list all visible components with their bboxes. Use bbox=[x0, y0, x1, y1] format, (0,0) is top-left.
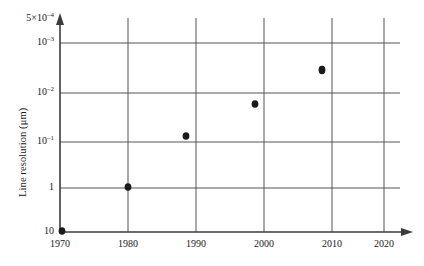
x-axis bbox=[60, 228, 413, 236]
x-tick-label-2020: 2020 bbox=[362, 238, 406, 249]
y-tick-base-1e-2: 10 bbox=[37, 86, 47, 97]
chart-plot-area bbox=[0, 0, 424, 266]
y-axis-arrowhead bbox=[56, 13, 64, 25]
y-tick-label-1e-2: 10–2 bbox=[10, 86, 54, 97]
data-points bbox=[59, 66, 326, 235]
x-tick-label-1970: 1970 bbox=[38, 238, 82, 249]
y-tick-label-5e-4: 5×10–4 bbox=[10, 12, 54, 23]
data-point-1970[interactable] bbox=[59, 227, 66, 235]
y-tick-base-1e-3: 10 bbox=[37, 36, 47, 47]
x-tick-label-1980: 1980 bbox=[106, 238, 150, 249]
y-tick-label-1e-3: 10–3 bbox=[10, 36, 54, 47]
y-tick-label-1e-1: 10–1 bbox=[10, 135, 54, 146]
y-tick-label-10: 10 bbox=[10, 225, 54, 236]
y-tick-exp-1e-2: –2 bbox=[47, 85, 54, 93]
y-tick-base-1e-1: 10 bbox=[37, 135, 47, 146]
data-point-1980[interactable] bbox=[125, 183, 132, 191]
y-tick-label-1: 1 bbox=[10, 181, 54, 192]
x-tick-label-1990: 1990 bbox=[174, 238, 218, 249]
x-tick-label-2000: 2000 bbox=[242, 238, 286, 249]
data-point-2010[interactable] bbox=[319, 66, 326, 74]
vertical-gridlines bbox=[128, 18, 384, 232]
data-point-1990[interactable] bbox=[183, 132, 190, 140]
x-axis-arrowhead bbox=[401, 228, 413, 236]
data-point-2000[interactable] bbox=[252, 100, 259, 108]
x-tick-label-2010: 2010 bbox=[310, 238, 354, 249]
horizontal-gridlines bbox=[60, 43, 400, 188]
y-axis bbox=[56, 13, 64, 232]
y-tick-base-5e-4: 5×10 bbox=[26, 12, 47, 23]
y-tick-exp-1e-1: –1 bbox=[47, 134, 54, 142]
y-tick-exp-1e-3: –3 bbox=[47, 35, 54, 43]
chart-container: Line resolution (μm) 5×10–4 10–3 10–2 10… bbox=[0, 0, 424, 266]
y-tick-base-10: 10 bbox=[44, 225, 54, 236]
y-tick-base-1: 1 bbox=[49, 181, 54, 192]
y-tick-exp-5e-4: –4 bbox=[47, 11, 54, 19]
